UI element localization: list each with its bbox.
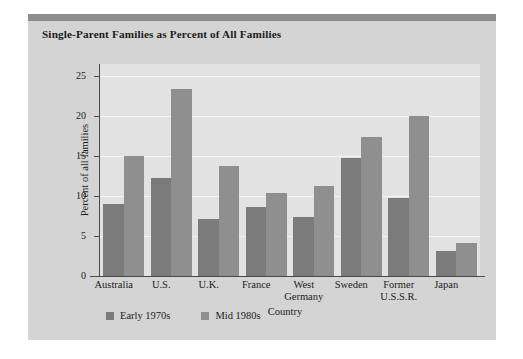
- bar: [266, 193, 287, 276]
- x-tick-label: Australia: [90, 279, 138, 291]
- x-tick-label-line: U.K.: [185, 279, 233, 291]
- bar: [219, 166, 240, 276]
- y-tick-label: 20: [46, 110, 86, 121]
- x-tick-label: WestGermany: [280, 279, 328, 303]
- bar: [293, 217, 314, 276]
- x-axis-line: [90, 276, 485, 277]
- y-tick-label: 0: [46, 270, 86, 281]
- bar: [436, 251, 457, 276]
- x-tick-label: U.S.: [138, 279, 186, 291]
- bar: [103, 204, 124, 276]
- y-axis-title: Percent of all families: [79, 124, 90, 216]
- bar: [314, 186, 335, 276]
- plot-wrapper: 0510152025 Percent of all families Austr…: [90, 64, 480, 276]
- x-tick-label-line: West: [280, 279, 328, 291]
- x-tick-label-line: U.S.: [138, 279, 186, 291]
- x-tick-label-line: France: [233, 279, 281, 291]
- bar: [151, 178, 172, 276]
- bar: [246, 207, 267, 276]
- x-tick-label-line: Sweden: [328, 279, 376, 291]
- y-axis-line: [99, 64, 100, 276]
- y-tick-mark: [94, 76, 100, 77]
- page-title: Single-Parent Families as Percent of All…: [42, 28, 281, 40]
- bar: [124, 156, 145, 276]
- x-tick-label: FormerU.S.S.R.: [375, 279, 423, 303]
- y-tick-mark: [94, 116, 100, 117]
- legend-swatch-icon: [201, 312, 209, 320]
- bar: [409, 116, 430, 276]
- bar: [388, 198, 409, 276]
- legend-label: Early 1970s: [120, 310, 170, 321]
- legend-item: Mid 1980s: [201, 310, 260, 321]
- x-tick-label-line: Japan: [423, 279, 471, 291]
- x-tick-label-line: U.S.S.R.: [375, 291, 423, 303]
- y-tick-mark: [94, 156, 100, 157]
- chart-legend: Early 1970sMid 1980s: [106, 310, 261, 321]
- x-tick-label: Sweden: [328, 279, 376, 291]
- y-tick-mark: [94, 196, 100, 197]
- bar: [171, 89, 192, 276]
- plot-area: [100, 64, 480, 276]
- x-tick-label-line: Australia: [90, 279, 138, 291]
- legend-label: Mid 1980s: [215, 310, 260, 321]
- figure-card: Single-Parent Families as Percent of All…: [28, 14, 496, 340]
- x-tick-label: France: [233, 279, 281, 291]
- y-tick-mark: [94, 276, 100, 277]
- x-tick-label: Japan: [423, 279, 471, 291]
- x-tick-label: U.K.: [185, 279, 233, 291]
- legend-swatch-icon: [106, 312, 114, 320]
- y-tick-mark: [94, 236, 100, 237]
- bar: [456, 243, 477, 276]
- y-tick-label: 25: [46, 70, 86, 81]
- y-tick-label: 5: [46, 230, 86, 241]
- screenshot-root: Single-Parent Families as Percent of All…: [0, 0, 523, 359]
- bar: [361, 137, 382, 276]
- bar: [341, 158, 362, 276]
- x-tick-label-line: Germany: [280, 291, 328, 303]
- card-top-band: [28, 14, 496, 21]
- legend-item: Early 1970s: [106, 310, 170, 321]
- x-tick-label-line: Former: [375, 279, 423, 291]
- bar: [198, 219, 219, 276]
- gridline: [100, 76, 480, 77]
